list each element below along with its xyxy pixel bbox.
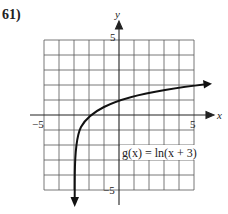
y-tick-min: −5 (103, 184, 115, 196)
x-axis-label: x (216, 109, 222, 121)
y-axis-label: y (114, 8, 120, 20)
y-tick-max: 5 (110, 31, 116, 43)
x-axis-arrow-icon (206, 112, 214, 119)
curve-right-arrow-icon (203, 80, 212, 89)
x-tick-min: −5 (32, 118, 44, 130)
y-axis-arrow-icon (116, 21, 123, 29)
function-curve (75, 85, 204, 199)
curve-down-arrow-icon (71, 197, 80, 207)
graph: y x 5 −5 −5 5 g(x) = ln(x + 3) (0, 0, 228, 214)
x-tick-max: 5 (190, 118, 196, 130)
axes (30, 21, 214, 205)
function-label: g(x) = ln(x + 3) (122, 146, 197, 160)
